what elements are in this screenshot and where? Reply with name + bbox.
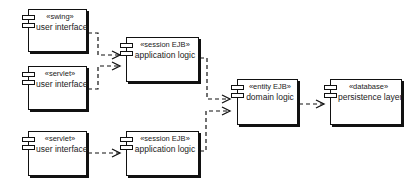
component-tab-icon [22, 15, 35, 20]
component-name: user interface [36, 144, 84, 154]
stereotype-label: «servlet» [36, 69, 84, 79]
component-tab-icon [22, 72, 35, 77]
component-tab-icon [120, 145, 133, 150]
stereotype-label: «swing» [36, 12, 84, 22]
component-tab-icon [324, 85, 337, 90]
component-tab-icon [22, 80, 35, 85]
component-name: domain logic [245, 92, 295, 102]
component-entity-ejb: «entity EJB» domain logic [237, 79, 298, 125]
component-tab-icon [324, 93, 337, 98]
component-name: application logic [134, 50, 196, 60]
component-tab-icon [120, 43, 133, 48]
dependency-session1-to-entity [200, 58, 229, 99]
component-servlet-user-interface-1: «servlet» user interface [28, 66, 87, 110]
stereotype-label: «entity EJB» [245, 82, 295, 92]
stereotype-label: «session EJB» [134, 134, 196, 144]
component-database: «database» persistence layer [330, 79, 402, 125]
component-tab-icon [120, 51, 133, 56]
stereotype-label: «session EJB» [134, 40, 196, 50]
component-servlet-user-interface-2: «servlet» user interface [28, 131, 87, 176]
component-name: persistence layer [338, 92, 399, 102]
component-session-ejb-2: «session EJB» application logic [126, 131, 199, 176]
component-session-ejb-1: «session EJB» application logic [126, 37, 199, 82]
component-swing-user-interface: «swing» user interface [28, 9, 87, 52]
component-name: user interface [36, 79, 84, 89]
component-tab-icon [22, 137, 35, 142]
component-name: user interface [36, 22, 84, 32]
component-tab-icon [22, 23, 35, 28]
component-tab-icon [120, 137, 133, 142]
component-tab-icon [22, 145, 35, 150]
stereotype-label: «servlet» [36, 134, 84, 144]
component-tab-icon [231, 85, 244, 90]
dependency-session2-to-entity [200, 111, 229, 151]
component-diagram: «swing» user interface «servlet» user in… [0, 0, 420, 187]
stereotype-label: «database» [338, 82, 399, 92]
component-tab-icon [231, 93, 244, 98]
component-name: application logic [134, 144, 196, 154]
